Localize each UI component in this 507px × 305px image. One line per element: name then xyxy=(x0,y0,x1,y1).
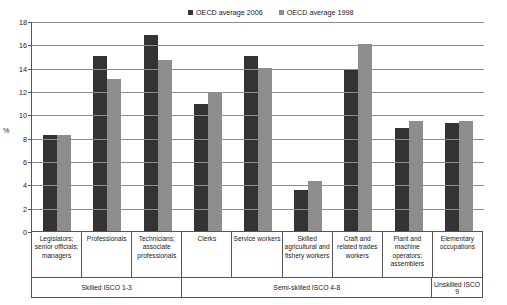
group-label: Semi-skilled ISCO 4-8 xyxy=(182,278,432,297)
y-axis-tick-label: 6 xyxy=(23,158,27,167)
bar-2006 xyxy=(344,69,358,231)
bar-2006 xyxy=(93,56,107,231)
plot-area xyxy=(31,22,483,232)
category-label: Service workers xyxy=(232,232,282,277)
legend-swatch-2006 xyxy=(188,10,193,15)
legend-swatch-1998 xyxy=(279,10,284,15)
bar-group xyxy=(434,21,484,231)
category-label: Craft and related trades workers xyxy=(333,232,383,277)
bar-group xyxy=(333,21,383,231)
y-axis-tick-label: 0 xyxy=(23,228,27,237)
bar-2006 xyxy=(294,190,308,231)
y-axis-tick-label: 10 xyxy=(19,111,27,120)
group-label-band: Skilled ISCO 1-3Semi-skilled ISCO 4-8Uns… xyxy=(31,278,483,298)
category-label: Plant and machine operators; assemblers xyxy=(383,232,433,277)
legend-label-2006: OECD average 2006 xyxy=(196,8,263,17)
gridline xyxy=(32,209,484,210)
gridline xyxy=(32,69,484,70)
category-label: Clerks xyxy=(182,232,232,277)
y-axis-tick-label: 12 xyxy=(19,88,27,97)
category-label-band: Legislators; senior officials; managersP… xyxy=(31,232,483,278)
chart-figure: OECD average 2006 OECD average 1998 0246… xyxy=(0,0,507,305)
gridline xyxy=(32,185,484,186)
legend-label-1998: OECD average 1998 xyxy=(287,8,354,17)
bar-group xyxy=(233,21,283,231)
category-label: Legislators; senior officials; managers xyxy=(32,232,82,277)
legend-item-1998: OECD average 1998 xyxy=(279,8,354,17)
bar-2006 xyxy=(144,35,158,231)
category-label: Skilled agricultural and fishery workers xyxy=(283,232,333,277)
legend-item-2006: OECD average 2006 xyxy=(188,8,263,17)
y-axis-tick-label: 8 xyxy=(23,134,27,143)
bar-1998 xyxy=(308,181,322,231)
gridline xyxy=(32,139,484,140)
group-label: Skilled ISCO 1-3 xyxy=(32,278,182,297)
bar-1998 xyxy=(57,135,71,231)
group-label: Unskilled ISCO 9 xyxy=(432,278,482,297)
bar-group xyxy=(82,21,132,231)
bar-2006 xyxy=(395,128,409,231)
bar-group xyxy=(183,21,233,231)
y-axis-tick-label: 14 xyxy=(19,64,27,73)
category-label: Professionals xyxy=(82,232,132,277)
y-axis-tick-label: 4 xyxy=(23,181,27,190)
y-axis-label: % xyxy=(3,126,9,135)
bar-series-container xyxy=(32,21,484,231)
bar-2006 xyxy=(43,135,57,231)
bar-group xyxy=(384,21,434,231)
category-label: Technicians; associate professionals xyxy=(132,232,182,277)
gridline xyxy=(32,115,484,116)
bar-group xyxy=(283,21,333,231)
bar-group xyxy=(32,21,82,231)
gridline xyxy=(32,22,484,23)
gridline xyxy=(32,162,484,163)
gridline xyxy=(32,45,484,46)
y-axis-tick-label: 18 xyxy=(19,18,27,27)
gridline xyxy=(32,92,484,93)
y-axis-tick-label: 16 xyxy=(19,41,27,50)
bar-1998 xyxy=(158,60,172,232)
category-label: Elementary occupations xyxy=(433,232,482,277)
bar-2006 xyxy=(244,56,258,231)
chart-legend: OECD average 2006 OECD average 1998 xyxy=(188,6,448,19)
bar-group xyxy=(132,21,182,231)
y-axis-tick-label: 2 xyxy=(23,204,27,213)
bar-2006 xyxy=(194,104,208,231)
